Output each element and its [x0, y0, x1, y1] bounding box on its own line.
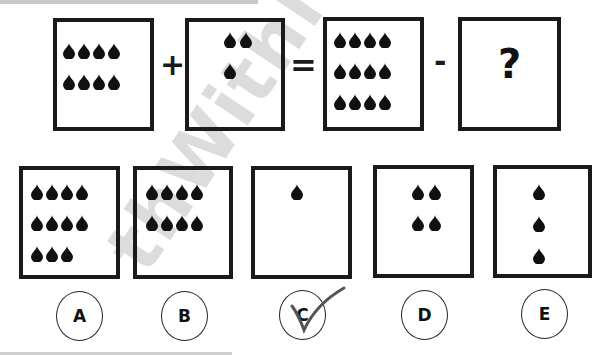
- option-label-d[interactable]: D: [401, 290, 448, 340]
- equation-box-result: [323, 17, 424, 131]
- minus-sign: -: [434, 44, 446, 79]
- checkmark-icon: [286, 284, 348, 336]
- question-mark: ?: [498, 41, 521, 87]
- option-box-c[interactable]: [251, 166, 352, 279]
- option-label-b[interactable]: B: [161, 291, 208, 341]
- top-gray-bar: [0, 0, 258, 4]
- option-label-e[interactable]: E: [521, 289, 568, 339]
- option-box-a[interactable]: [19, 166, 120, 279]
- equation-box-term1: [53, 18, 154, 131]
- option-box-d[interactable]: [373, 165, 474, 278]
- plus-sign: +: [160, 47, 185, 82]
- equation-box-unknown: ?: [458, 17, 561, 131]
- option-box-b[interactable]: [133, 166, 233, 279]
- equals-sign: =: [290, 46, 317, 84]
- option-box-e[interactable]: [493, 165, 592, 278]
- option-label-a[interactable]: A: [56, 291, 103, 341]
- equation-box-term2: [185, 18, 285, 131]
